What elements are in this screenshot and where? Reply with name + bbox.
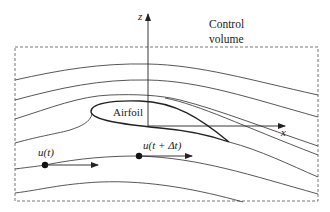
z-axis-label: z (137, 10, 143, 22)
velocity-label-t: u(t) (38, 146, 54, 159)
streamline-5 (15, 156, 318, 194)
streamline-6 (15, 182, 243, 202)
streamlines (15, 64, 318, 202)
airfoil-diagram: z x Control volume Airfoil u(t) u(t + Δt… (0, 0, 330, 212)
streamline-4 (15, 114, 92, 143)
control-volume-label-2: volume (209, 33, 244, 45)
velocity-label-t-dt: u(t + Δt) (143, 139, 182, 152)
streamline-wake (229, 142, 318, 177)
control-volume-label-1: Control (209, 18, 244, 30)
airfoil-shape (91, 101, 229, 142)
x-axis-label: x (280, 126, 286, 138)
airfoil-label: Airfoil (113, 106, 143, 118)
streamline-1 (15, 64, 318, 95)
